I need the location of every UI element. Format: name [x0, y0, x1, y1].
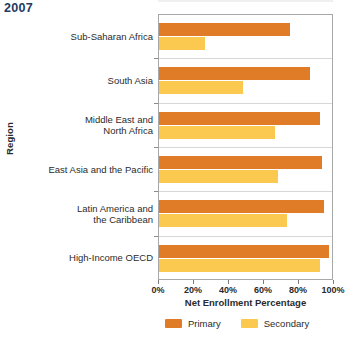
x-axis-tick-label: 40% — [208, 285, 248, 295]
category-label-line: High-Income OECD — [0, 252, 153, 263]
x-axis-tick-label: 100% — [313, 285, 349, 295]
legend-item: Secondary — [241, 318, 309, 329]
y-axis-tick — [154, 191, 158, 192]
bar-secondary — [159, 170, 278, 183]
x-axis-tick — [193, 280, 194, 284]
x-axis-tick — [333, 280, 334, 284]
bar-primary — [159, 156, 322, 169]
x-axis-tick-label: 60% — [243, 285, 283, 295]
y-axis-tick — [154, 58, 158, 59]
bar-primary — [159, 67, 310, 80]
top-crop-artifact — [158, 0, 333, 2]
category-label: Middle East andNorth Africa — [0, 114, 153, 136]
bar-group — [159, 104, 332, 148]
bar-primary — [159, 112, 320, 125]
x-axis-tick — [298, 280, 299, 284]
category-label-line: East Asia and the Pacific — [0, 164, 153, 175]
bar-primary — [159, 245, 329, 258]
category-label-line: Sub-Saharan Africa — [0, 31, 153, 42]
bar-group — [159, 192, 332, 236]
x-axis-tick — [158, 280, 159, 284]
bars-container — [159, 15, 332, 279]
y-axis-tick — [154, 236, 158, 237]
legend-item: Primary — [165, 318, 221, 329]
x-axis-title: Net Enrollment Percentage — [158, 297, 333, 308]
x-axis-tick — [228, 280, 229, 284]
category-label: South Asia — [0, 75, 153, 86]
category-label-line: Middle East and — [0, 114, 153, 125]
x-axis-tick-label: 0% — [138, 285, 178, 295]
category-label-line: North Africa — [0, 125, 153, 136]
bar-secondary — [159, 81, 243, 94]
category-label: East Asia and the Pacific — [0, 164, 153, 175]
x-axis-tick-label: 80% — [278, 285, 318, 295]
category-label-line: the Caribbean — [0, 214, 153, 225]
bar-group — [159, 59, 332, 103]
legend-label: Primary — [188, 318, 221, 329]
category-label: Sub-Saharan Africa — [0, 31, 153, 42]
category-label: High-Income OECD — [0, 252, 153, 263]
chart-year-label: 2007 — [4, 1, 33, 15]
legend-swatch — [241, 319, 258, 328]
y-axis-tick — [154, 103, 158, 104]
legend-label: Secondary — [264, 318, 309, 329]
chart-legend: PrimarySecondary — [165, 318, 349, 329]
bar-secondary — [159, 126, 275, 139]
y-axis-tick — [154, 147, 158, 148]
category-label: Latin America andthe Caribbean — [0, 203, 153, 225]
bar-primary — [159, 23, 290, 36]
bar-secondary — [159, 259, 320, 272]
bar-secondary — [159, 37, 205, 50]
legend-swatch — [165, 319, 182, 328]
x-axis-tick — [263, 280, 264, 284]
plot-area — [158, 14, 333, 280]
x-axis-tick-label: 20% — [173, 285, 213, 295]
bar-group — [159, 148, 332, 192]
category-label-line: South Asia — [0, 75, 153, 86]
bar-primary — [159, 200, 324, 213]
bar-group — [159, 15, 332, 59]
category-label-line: Latin America and — [0, 203, 153, 214]
bar-group — [159, 237, 332, 281]
bar-secondary — [159, 214, 287, 227]
